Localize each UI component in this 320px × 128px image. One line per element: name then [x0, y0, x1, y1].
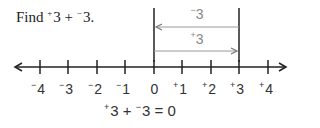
result-equation: +3 + −3 = 0 [104, 102, 176, 119]
tick-label: −3 [59, 80, 73, 97]
value: 3 [196, 31, 204, 47]
tick-label: −2 [88, 80, 102, 97]
minus-three-arrow-label: −3 [190, 5, 203, 22]
tick-label: −4 [31, 80, 45, 97]
tick-label: +3 [230, 80, 244, 97]
tick-label: 0 [150, 80, 159, 97]
tick-label: +4 [259, 80, 273, 97]
tick-label: −1 [116, 80, 130, 97]
tick-label: +2 [202, 80, 216, 97]
value: 3 [196, 6, 204, 22]
plus-three-arrow-label: +3 [190, 30, 203, 47]
tick-label: +1 [173, 80, 187, 97]
